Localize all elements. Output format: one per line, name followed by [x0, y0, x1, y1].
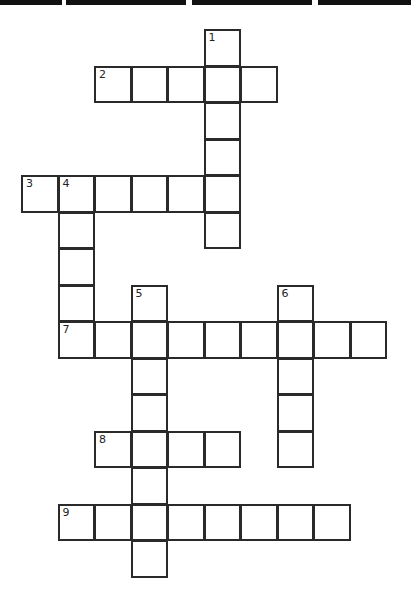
crossword-cell[interactable]: [94, 504, 132, 542]
crossword-cell[interactable]: [240, 504, 278, 542]
crossword-cell[interactable]: [277, 358, 315, 396]
clue-number: 7: [63, 324, 70, 336]
crossword-cell[interactable]: [204, 212, 242, 250]
crossword-cell[interactable]: [204, 66, 242, 104]
crossword-cell[interactable]: [94, 321, 132, 359]
crossword-cell[interactable]: 1: [204, 29, 242, 67]
crossword-cell[interactable]: [313, 321, 351, 359]
crossword-cell[interactable]: [167, 66, 205, 104]
crossword-cell[interactable]: [204, 102, 242, 140]
crossword-cell[interactable]: [94, 175, 132, 213]
crossword-cell[interactable]: 7: [58, 321, 96, 359]
clue-number: 1: [209, 32, 216, 44]
crossword-cell[interactable]: [131, 394, 169, 432]
crossword-cell[interactable]: [131, 321, 169, 359]
clue-number: 2: [99, 69, 106, 81]
crossword-cell[interactable]: [204, 504, 242, 542]
crossword-cell[interactable]: [167, 431, 205, 469]
crossword-cell[interactable]: 3: [21, 175, 59, 213]
crossword-cell[interactable]: 5: [131, 285, 169, 323]
crossword-cell[interactable]: [277, 504, 315, 542]
crossword-cell[interactable]: [131, 66, 169, 104]
crossword-cell[interactable]: [204, 321, 242, 359]
crossword-cell[interactable]: [167, 321, 205, 359]
crossword-cell[interactable]: 8: [94, 431, 132, 469]
crossword-cell[interactable]: 9: [58, 504, 96, 542]
clue-number: 6: [282, 288, 289, 300]
crossword-cell[interactable]: [313, 504, 351, 542]
crossword-cell[interactable]: [350, 321, 388, 359]
crossword-cell[interactable]: [131, 358, 169, 396]
crossword-cell[interactable]: [131, 175, 169, 213]
clue-number: 4: [63, 178, 70, 190]
crossword-cell[interactable]: 6: [277, 285, 315, 323]
crossword-grid: 123475689: [0, 0, 411, 600]
crossword-cell[interactable]: [131, 467, 169, 505]
crossword-cell[interactable]: 2: [94, 66, 132, 104]
crossword-cell[interactable]: [277, 431, 315, 469]
crossword-cell[interactable]: [131, 504, 169, 542]
crossword-cell[interactable]: [240, 66, 278, 104]
crossword-cell[interactable]: [277, 321, 315, 359]
crossword-cell[interactable]: [240, 321, 278, 359]
crossword-cell[interactable]: [167, 504, 205, 542]
crossword-cell[interactable]: [204, 139, 242, 177]
crossword-cell[interactable]: [58, 285, 96, 323]
clue-number: 9: [63, 507, 70, 519]
crossword-cell[interactable]: [204, 175, 242, 213]
clue-number: 3: [26, 178, 33, 190]
crossword-cell[interactable]: [131, 540, 169, 578]
crossword-cell[interactable]: [131, 431, 169, 469]
crossword-cell[interactable]: [277, 394, 315, 432]
clue-number: 8: [99, 434, 106, 446]
crossword-cell[interactable]: [58, 248, 96, 286]
crossword-cell[interactable]: [204, 431, 242, 469]
crossword-cell[interactable]: [167, 175, 205, 213]
crossword-cell[interactable]: [58, 212, 96, 250]
crossword-cell[interactable]: 4: [58, 175, 96, 213]
clue-number: 5: [136, 288, 143, 300]
